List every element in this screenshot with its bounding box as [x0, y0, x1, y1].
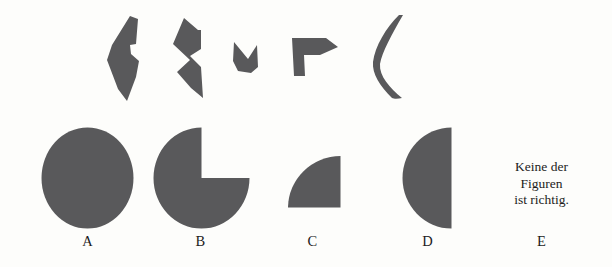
piece-5-shape [372, 14, 408, 100]
answer-option-b[interactable]: B [143, 115, 258, 267]
puzzle-piece-3 [231, 40, 263, 78]
option-b-figure [153, 127, 252, 229]
piece-4-shape [290, 35, 340, 80]
option-a-figure [41, 127, 134, 229]
option-d-label: D [370, 233, 485, 249]
puzzle-piece-2 [167, 16, 213, 100]
puzzle-piece-5 [372, 14, 408, 100]
option-a-label: A [30, 233, 145, 249]
option-c-label: C [255, 233, 370, 249]
none-text-line-1: Keine der [484, 159, 599, 176]
answer-option-d[interactable]: D [370, 115, 485, 267]
test-item-sheet: A B C [0, 0, 612, 267]
puzzle-pieces-row [0, 0, 612, 115]
option-d-figure [402, 127, 453, 229]
option-b-label: B [143, 233, 258, 249]
quarter-circle-shape [287, 155, 342, 209]
none-text-line-3: ist richtig. [484, 192, 599, 209]
puzzle-piece-4 [290, 35, 340, 80]
piece-1-shape [100, 15, 148, 103]
answer-options-row: A B C [0, 115, 612, 267]
piece-2-shape [167, 16, 213, 100]
puzzle-piece-1 [100, 15, 148, 103]
piece-3-shape [231, 40, 263, 78]
full-circle-shape [41, 127, 134, 229]
half-circle-shape [402, 127, 453, 229]
answer-option-c[interactable]: C [255, 115, 370, 267]
answer-option-a[interactable]: A [30, 115, 145, 267]
circle-with-quarter-notch-shape [153, 127, 252, 229]
answer-option-e[interactable]: Keine der Figuren ist richtig. E [484, 115, 599, 267]
none-text-line-2: Figuren [484, 176, 599, 193]
option-e-label: E [484, 233, 599, 249]
option-c-figure [287, 155, 342, 209]
none-of-the-figures-text: Keine der Figuren ist richtig. [484, 159, 599, 209]
